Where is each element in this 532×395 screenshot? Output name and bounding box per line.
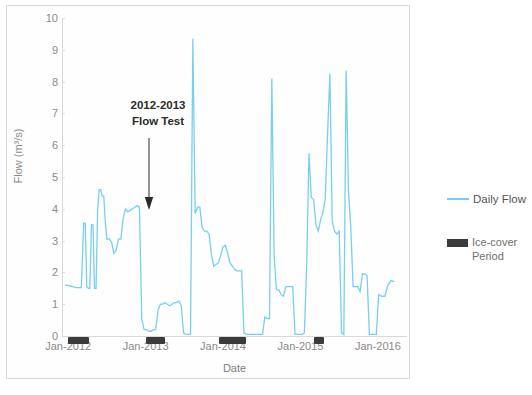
y-tick-mark — [62, 336, 65, 337]
legend-item-ice-cover: Ice-cover Period — [447, 236, 532, 264]
y-axis-ticks: 012345678910 — [24, 18, 58, 336]
y-tick-label: 1 — [30, 299, 58, 310]
x-tick-label: Jan-2016 — [355, 340, 401, 352]
ice-cover-bar — [314, 337, 324, 344]
daily-flow-chart: 012345678910 Flow (m³/s) Jan-2012Jan-201… — [0, 0, 532, 395]
series-daily-flow — [62, 18, 405, 336]
legend-label-daily-flow: Daily Flow — [473, 192, 526, 206]
y-tick-label: 10 — [30, 13, 58, 24]
y-tick-label: 2 — [30, 267, 58, 278]
ice-cover-bar — [146, 337, 165, 344]
y-tick-mark — [62, 304, 65, 305]
y-tick-mark — [62, 272, 65, 273]
y-tick-mark — [62, 241, 65, 242]
y-tick-mark — [62, 113, 65, 114]
annotation-line-2: Flow Test — [112, 114, 204, 130]
y-tick-label: 3 — [30, 235, 58, 246]
y-tick-mark — [62, 177, 65, 178]
legend-line-swatch-icon — [447, 198, 469, 200]
y-tick-label: 7 — [30, 108, 58, 119]
annotation-line-1: 2012-2013 — [112, 98, 204, 114]
legend-item-daily-flow: Daily Flow — [447, 192, 532, 206]
y-tick-mark — [62, 50, 65, 51]
legend-box-swatch-icon — [447, 239, 468, 247]
y-tick-mark — [62, 18, 65, 19]
y-axis-label: Flow (m³/s) — [12, 108, 24, 204]
annotation-arrow-icon — [143, 138, 155, 210]
y-tick-label: 5 — [30, 172, 58, 183]
y-tick-label: 8 — [30, 76, 58, 87]
ice-cover-bar — [219, 337, 246, 344]
chart-legend: Daily Flow Ice-cover Period — [447, 192, 532, 294]
y-tick-label: 4 — [30, 203, 58, 214]
x-axis-label: Date — [62, 362, 407, 374]
flow-test-annotation: 2012-2013 Flow Test — [112, 98, 204, 129]
y-tick-mark — [62, 209, 65, 210]
legend-label-ice-cover: Ice-cover Period — [472, 236, 517, 264]
y-tick-mark — [62, 145, 65, 146]
y-tick-label: 6 — [30, 140, 58, 151]
y-tick-label: 9 — [30, 44, 58, 55]
daily-flow-line — [65, 39, 394, 335]
y-tick-mark — [62, 82, 65, 83]
ice-cover-bar — [68, 337, 89, 344]
